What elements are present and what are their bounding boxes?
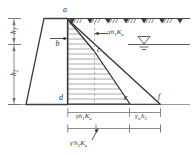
pressure-label-arrow-top (94, 32, 108, 36)
point-label-f: f (158, 93, 160, 101)
point-label-e: e (124, 94, 128, 102)
label-active-pressure-bottom: γh1Ka (76, 113, 92, 120)
point-label-b: b (56, 40, 60, 48)
point-label-a: a (63, 6, 67, 14)
pressure-line-a-c (68, 20, 95, 52)
figure-container: a b c d e f h1 h2 γh1Ka γh1Ka γwh2 γ′h2K… (0, 0, 192, 156)
water-table-icon (138, 37, 150, 50)
water-table-group (128, 37, 190, 50)
dimension-label-h2: h2 (10, 67, 18, 79)
dimension-label-h1: h1 (10, 25, 18, 37)
point-label-d: d (59, 94, 63, 102)
ground-surface-group (68, 19, 190, 24)
label-active-pressure-top: γh1Ka (108, 29, 124, 36)
retaining-wall-body (26, 19, 68, 105)
label-water-pressure: γwh2 (135, 113, 147, 120)
point-label-c: c (97, 46, 101, 54)
diagram-canvas (0, 0, 192, 156)
label-submerged-pressure: γ′h2Ka (70, 140, 87, 147)
